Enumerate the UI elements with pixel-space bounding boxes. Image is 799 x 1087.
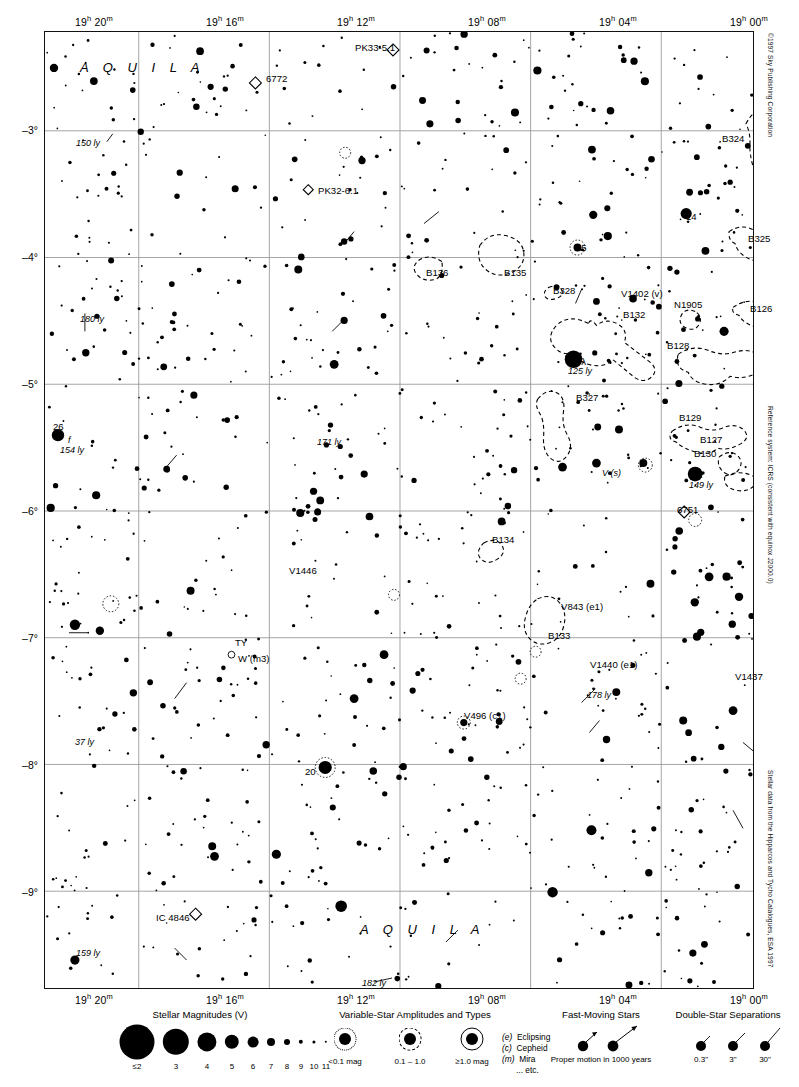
ra-tick-bottom-2: 19h 12m bbox=[337, 992, 375, 1006]
star-dot bbox=[442, 168, 444, 170]
star-dot bbox=[341, 292, 345, 296]
star-dot bbox=[245, 109, 247, 111]
star-dot bbox=[271, 753, 273, 755]
star-dot bbox=[733, 231, 736, 234]
star-dot bbox=[66, 538, 68, 540]
star-dot bbox=[271, 921, 273, 923]
star-dot bbox=[583, 32, 585, 34]
star-dot bbox=[194, 818, 196, 820]
star-dot bbox=[308, 958, 312, 962]
map-label-20: 20 bbox=[305, 767, 316, 777]
star-dot bbox=[97, 195, 99, 197]
star-dot bbox=[348, 453, 353, 458]
magnitude-label-8: 8 bbox=[285, 1062, 289, 1071]
star-dot bbox=[576, 124, 578, 126]
star-dot bbox=[325, 699, 327, 701]
star-dot bbox=[672, 536, 677, 541]
star-dot bbox=[78, 706, 81, 709]
star-dot bbox=[650, 300, 655, 305]
star-dot bbox=[359, 177, 361, 179]
star-dot bbox=[222, 555, 225, 558]
star-dot bbox=[125, 164, 127, 166]
star-dot bbox=[382, 726, 386, 730]
star-dot bbox=[435, 742, 437, 744]
star-dot bbox=[48, 406, 51, 409]
star-dot bbox=[410, 57, 412, 59]
star-dot bbox=[484, 775, 489, 780]
star-dot bbox=[233, 349, 235, 351]
star-dot bbox=[169, 47, 171, 49]
star-dot bbox=[308, 876, 310, 878]
star-dot bbox=[131, 362, 135, 366]
star-dot bbox=[172, 327, 176, 331]
star-dot bbox=[478, 944, 480, 946]
star-dot bbox=[220, 105, 222, 107]
star-dot bbox=[670, 869, 672, 871]
star-dot bbox=[482, 477, 484, 479]
dec-tick-2: –5° bbox=[4, 378, 38, 390]
star-dot bbox=[751, 638, 753, 640]
star-dot bbox=[516, 659, 522, 665]
star-dot bbox=[196, 974, 199, 977]
star-dot bbox=[328, 422, 333, 427]
star-dot bbox=[623, 256, 625, 258]
star-dot bbox=[202, 610, 204, 612]
star-a8 bbox=[558, 463, 567, 472]
star-dot bbox=[181, 390, 184, 393]
star-dot bbox=[237, 527, 239, 529]
star-dot bbox=[444, 858, 449, 863]
star-dot bbox=[292, 542, 296, 546]
star-dot bbox=[401, 475, 403, 477]
star-dot bbox=[247, 860, 250, 863]
star-dot bbox=[602, 234, 604, 236]
star-dot bbox=[434, 35, 436, 37]
star-dot bbox=[353, 715, 357, 719]
star-dot bbox=[704, 189, 710, 195]
star-dot bbox=[628, 914, 633, 919]
star-dot bbox=[575, 942, 579, 946]
star-dot bbox=[633, 639, 636, 642]
star-dot bbox=[228, 279, 230, 281]
star-dot bbox=[659, 452, 661, 454]
star-dot bbox=[327, 918, 330, 921]
ra-tick-bottom-5: 19h 00m bbox=[730, 992, 768, 1006]
star-dot bbox=[314, 560, 316, 562]
map-label-154-ly: 154 ly bbox=[60, 446, 84, 455]
star-dot bbox=[296, 530, 298, 532]
star-dot bbox=[172, 875, 175, 878]
star-dot bbox=[56, 815, 58, 817]
star-dot bbox=[606, 823, 608, 825]
star-dot bbox=[516, 256, 518, 258]
star-dot bbox=[285, 264, 289, 268]
map-label-b128: B128 bbox=[667, 341, 689, 351]
star-dot bbox=[280, 374, 282, 376]
star-dot bbox=[311, 357, 313, 359]
ra-tick-top-4: 19h 04m bbox=[599, 14, 637, 28]
star-dot bbox=[76, 196, 78, 198]
star-dot bbox=[306, 504, 311, 509]
constellation-label-aquila-top: A Q U I L A bbox=[80, 60, 205, 75]
star-dot bbox=[310, 488, 317, 495]
star-dot bbox=[449, 712, 451, 714]
star-dot bbox=[647, 353, 651, 357]
star-dot bbox=[599, 238, 602, 241]
star-dot bbox=[391, 84, 397, 90]
star-dot bbox=[180, 768, 187, 775]
star-dot bbox=[559, 202, 562, 205]
star-dot bbox=[317, 63, 321, 67]
star-dot bbox=[311, 869, 315, 873]
ra-tick-top-2: 19h 12m bbox=[337, 14, 375, 28]
map-label-b126: B126 bbox=[750, 304, 772, 314]
star-dot bbox=[715, 726, 719, 730]
star-dot bbox=[567, 385, 569, 387]
star-dot bbox=[607, 107, 615, 115]
map-label-6772: 6772 bbox=[266, 74, 287, 84]
star-dot bbox=[406, 233, 411, 238]
star-dot bbox=[726, 56, 728, 58]
star-a2 bbox=[593, 298, 600, 305]
star-dot bbox=[157, 368, 159, 370]
star-dot bbox=[310, 339, 312, 341]
star-dot bbox=[85, 849, 88, 852]
star-dot bbox=[335, 563, 338, 566]
star-dot bbox=[735, 884, 740, 889]
